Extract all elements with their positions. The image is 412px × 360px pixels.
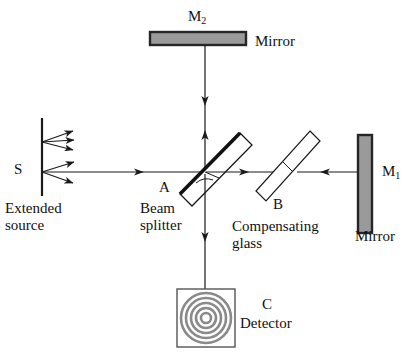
source-ray (42, 162, 74, 172)
beamsplitter-caption: Beamsplitter (140, 200, 182, 234)
mirror-m1-label-subscript: 1 (395, 170, 400, 181)
mirror-right-caption: Mirror (355, 228, 395, 245)
compensator-caption-line2: glass (232, 235, 262, 251)
mirror-top-caption: Mirror (255, 33, 295, 50)
mirror-m1 (358, 135, 372, 233)
source-caption-line1: Extended (5, 200, 62, 216)
diagram-canvas (0, 0, 412, 360)
michelson-interferometer-diagram: M2 Mirror S Extendedsource A Beamsplitte… (0, 0, 412, 360)
mirror-m1-label: M1 (382, 163, 400, 181)
detector-point-label: C (262, 296, 272, 313)
mirror-m2-label: M2 (188, 8, 206, 26)
source-symbol-label: S (14, 161, 22, 178)
source-ray (42, 172, 73, 183)
beamsplitter-caption-line1: Beam (140, 200, 175, 216)
compensating-glass-slab (256, 131, 320, 201)
mirror-m1-label-text: M (382, 163, 395, 179)
beamsplitter-point-label: A (159, 179, 170, 196)
compensating-glass-group (256, 131, 320, 201)
mirror-m2-label-subscript: 2 (201, 15, 206, 26)
source-caption: Extendedsource (5, 200, 62, 234)
extended-source-group (42, 118, 74, 196)
source-ray-fan-upper (42, 131, 74, 150)
compensator-caption-line1: Compensating (232, 218, 319, 234)
source-caption-line2: source (5, 217, 44, 233)
source-ray (42, 142, 73, 150)
detector-group (177, 289, 235, 347)
compensator-point-label: B (273, 196, 283, 213)
mirror-m2 (150, 32, 246, 45)
detector-caption: Detector (240, 315, 292, 332)
compensator-caption: Compensatingglass (232, 218, 319, 252)
mirror-m2-label-text: M (188, 8, 201, 24)
beamsplitter-caption-line2: splitter (140, 217, 182, 233)
